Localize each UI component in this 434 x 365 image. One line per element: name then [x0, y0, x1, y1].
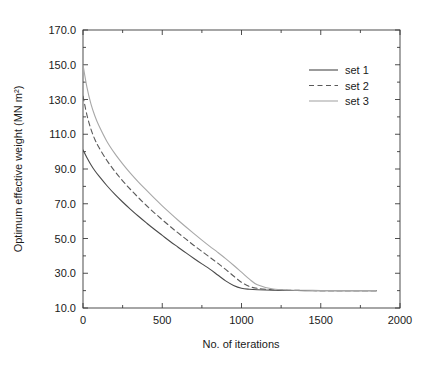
- y-tick-label: 130.0: [48, 94, 76, 106]
- x-axis-tick-labels: 0500100015002000: [80, 314, 412, 326]
- x-axis-title: No. of iterations: [202, 338, 280, 350]
- x-tick-label: 1000: [229, 314, 253, 326]
- legend-label-set-1: set 1: [345, 64, 369, 76]
- y-tick-label: 70.0: [55, 198, 76, 210]
- data-series-group: [83, 65, 376, 291]
- legend-label-set-2: set 2: [345, 80, 369, 92]
- series-line-set-1: [83, 150, 376, 291]
- x-tick-label: 1500: [309, 314, 333, 326]
- y-tick-label: 90.0: [55, 163, 76, 175]
- x-tick-label: 500: [153, 314, 171, 326]
- x-tick-label: 0: [80, 314, 86, 326]
- y-tick-label: 110.0: [49, 128, 76, 140]
- series-line-set-3: [83, 65, 376, 291]
- y-tick-label: 50.0: [55, 233, 76, 245]
- y-tick-label: 170.0: [48, 24, 76, 36]
- y-axis-title: Optimum effective weight (MN m²): [12, 86, 24, 253]
- chart-legend: set 1set 2set 3: [309, 64, 369, 107]
- y-tick-label: 10.0: [55, 302, 76, 314]
- x-tick-label: 2000: [388, 314, 412, 326]
- line-chart: 10.030.050.070.090.0110.0130.0150.0170.0…: [0, 0, 434, 365]
- chart-figure: 10.030.050.070.090.0110.0130.0150.0170.0…: [0, 0, 434, 365]
- y-tick-label: 150.0: [48, 59, 76, 71]
- legend-label-set-3: set 3: [345, 95, 369, 107]
- y-axis-tick-labels: 10.030.050.070.090.0110.0130.0150.0170.0: [48, 24, 76, 314]
- y-tick-label: 30.0: [55, 267, 76, 279]
